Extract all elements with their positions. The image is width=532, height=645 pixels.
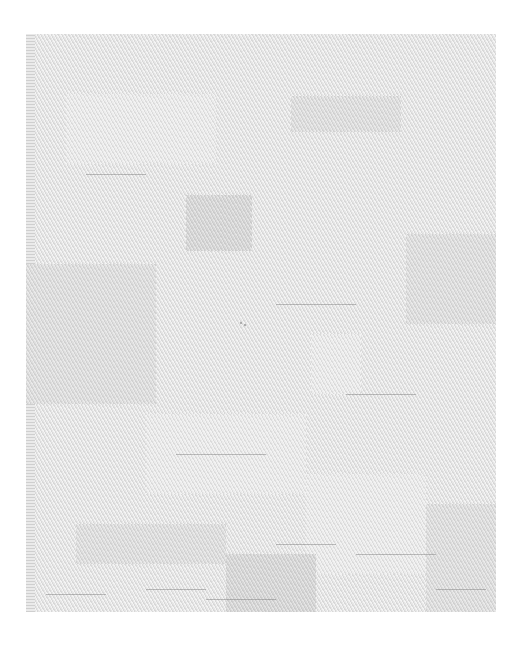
loose-thread	[436, 589, 486, 590]
loose-thread	[206, 599, 276, 600]
fabric-patch	[26, 264, 156, 404]
fabric-patch	[291, 96, 401, 132]
loose-thread	[276, 544, 336, 545]
textile-artwork	[26, 34, 496, 612]
fabric-patch	[76, 524, 226, 564]
loose-thread	[86, 174, 146, 175]
fabric-patch	[226, 554, 316, 612]
loose-thread	[356, 554, 436, 555]
fabric-patch	[66, 94, 216, 164]
loose-thread	[146, 589, 206, 590]
fabric-patch	[306, 474, 426, 574]
loose-thread	[46, 594, 106, 595]
loose-thread	[176, 454, 266, 455]
fabric-patch	[311, 334, 361, 394]
loose-thread	[276, 304, 356, 305]
small-stitch-mark	[240, 320, 246, 326]
fabric-patch	[406, 234, 496, 324]
fabric-patch	[186, 195, 252, 251]
loose-thread	[346, 394, 416, 395]
fabric-patch	[426, 504, 496, 612]
